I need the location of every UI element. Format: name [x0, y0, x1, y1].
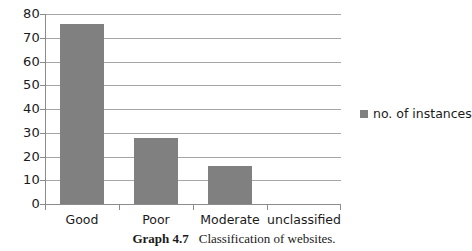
y-tick-label-80: 80	[6, 7, 40, 20]
y-tick-label-60: 60	[6, 55, 40, 68]
y-tick-mark-40	[40, 109, 45, 110]
y-tick-label-20: 20	[6, 150, 40, 163]
caption-number: Graph 4.7	[132, 231, 188, 246]
x-tick-mark-3	[267, 204, 268, 210]
y-tick-mark-70	[40, 38, 45, 39]
x-axis-tick-marks	[45, 204, 341, 210]
y-tick-mark-10	[40, 180, 45, 181]
y-tick-mark-0	[40, 204, 45, 205]
y-tick-label-10: 10	[6, 173, 40, 186]
legend: no. of instances	[360, 107, 472, 121]
bar-poor[interactable]	[134, 138, 178, 205]
bar-series	[45, 14, 341, 204]
x-tick-mark-0	[45, 204, 46, 210]
x-tick-mark-1	[119, 204, 120, 210]
bar-moderate[interactable]	[208, 166, 252, 204]
x-tick-label-poor: Poor	[119, 212, 193, 227]
y-tick-label-0: 0	[6, 197, 40, 210]
y-tick-label-30: 30	[6, 126, 40, 139]
y-tick-mark-60	[40, 62, 45, 63]
x-tick-label-moderate: Moderate	[193, 212, 267, 227]
y-tick-mark-30	[40, 133, 45, 134]
y-axis-tick-labels: 01020304050607080	[0, 0, 40, 251]
legend-swatch-no-of-instances	[360, 110, 368, 118]
x-tick-label-good: Good	[45, 212, 119, 227]
bar-good[interactable]	[60, 24, 104, 205]
caption-text: Classification of websites.	[199, 231, 336, 246]
y-tick-mark-20	[40, 157, 45, 158]
y-tick-mark-50	[40, 85, 45, 86]
x-tick-mark-4	[340, 204, 341, 210]
y-tick-label-70: 70	[6, 31, 40, 44]
x-tick-mark-2	[193, 204, 194, 210]
figure-caption: Graph 4.7Classification of websites.	[0, 231, 468, 247]
y-tick-label-50: 50	[6, 78, 40, 91]
x-axis-tick-labels: GoodPoorModerateunclassified	[45, 212, 341, 230]
y-tick-mark-80	[40, 14, 45, 15]
x-tick-label-unclassified: unclassified	[267, 212, 341, 227]
y-tick-label-40: 40	[6, 102, 40, 115]
legend-label-no-of-instances: no. of instances	[373, 107, 472, 121]
